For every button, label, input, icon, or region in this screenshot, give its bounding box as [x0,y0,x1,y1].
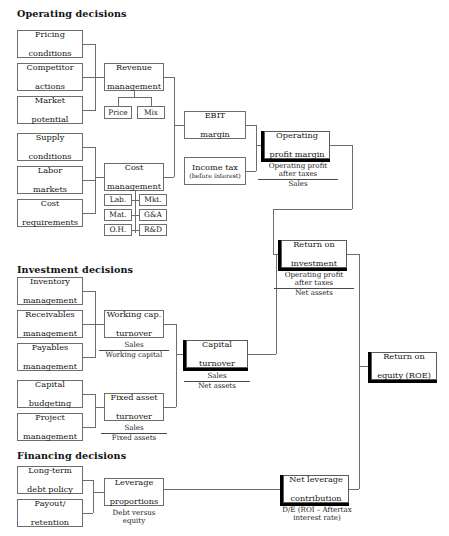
node-net-leverage-contribution[interactable]: Net leverage contribution [283,475,349,503]
node-market-potential[interactable]: Market potential [17,96,83,124]
connector-ebit-out [246,125,256,126]
connector-bus-to-revenue-management [95,77,104,78]
node-pricing-conditions[interactable]: Pricing conditions [17,30,83,58]
node-return-on-investment[interactable]: Return on investment [281,240,347,268]
connector-bus-to-ebit [174,125,184,126]
formula-numerator-line2: after taxes [295,278,333,287]
connector-cost-out [164,177,174,178]
formula-fixed-asset-turnover: Sales Fixed assets [101,424,167,442]
node-mkt[interactable]: Mkt. [139,194,167,206]
node-label-line1: Mkt. [144,196,161,204]
connector-fa-input-bus [95,394,96,428]
node-label-line1: Leverage [110,478,158,488]
node-competitor-actions[interactable]: Competitor actions [17,63,83,91]
node-fixed-asset-turnover[interactable]: Fixed asset turnover [104,393,164,421]
connector-payout-to-bus [83,513,93,514]
node-label-line2: requirements [22,218,78,228]
connector-capital-turnover-up [276,254,277,354]
formula-numerator-line1: Sales [184,372,250,381]
section-heading-financing: Financing decisions [17,450,126,461]
connector-bus-to-opm [256,145,264,146]
node-mix[interactable]: Mix [137,106,165,119]
node-lab[interactable]: Lab. [104,194,132,206]
node-revenue-management[interactable]: Revenue management [104,63,164,91]
node-label-line2: actions [26,82,73,92]
node-label-line1: Project [23,413,77,423]
node-ebit-margin[interactable]: EBIT margin [184,111,246,139]
node-label-line1: Receivables [23,310,77,320]
node-payout-retention[interactable]: Payout/ retention [17,499,83,527]
connector-roe-input-spine [359,254,360,489]
node-label-line2: budgeting [29,399,71,409]
node-label-line1: Labor [33,166,67,176]
connector-labor-to-bus [83,180,95,181]
node-label-line1: Lab. [110,196,126,204]
node-long-term-debt-policy[interactable]: Long-term debt policy [17,466,83,494]
connector-bus-to-leverage [93,492,104,493]
connector-pricing-to-bus [83,44,95,45]
connector-fixed-asset-out [164,407,176,408]
node-label-line1: Payout/ [31,499,69,509]
connector-capital-budgeting-to-bus [83,394,95,395]
node-label-line1: Return on [377,352,431,362]
node-rnd[interactable]: R&D [139,224,167,236]
node-label-line2: conditions [29,152,72,162]
section-heading-operating: Operating decisions [17,8,127,19]
connector-revenue-out [164,77,174,78]
node-cost-requirements[interactable]: Cost requirements [17,199,83,227]
node-capital-budgeting[interactable]: Capital budgeting [17,380,83,408]
node-receivables-management[interactable]: Receivables management [17,310,83,338]
connector-payables-to-bus [83,357,95,358]
node-supply-conditions[interactable]: Supply conditions [17,133,83,161]
node-label-line1: Income tax [189,163,240,173]
node-label-line2: proportions [110,497,158,507]
node-payables-management[interactable]: Payables management [17,343,83,371]
node-label-line2: potential [32,115,69,125]
formula-capital-turnover: Sales Net assets [184,372,250,390]
formula-denominator: Fixed assets [101,433,167,443]
node-label-line2: debt policy [27,485,73,495]
connector-inventory-to-bus [83,291,95,292]
connector-ebit-input-bus [174,77,175,177]
node-operating-profit-margin[interactable]: Operating profit margin [264,131,330,159]
node-labor-markets[interactable]: Labor markets [17,166,83,194]
formula-numerator-line1: Sales [101,424,167,433]
node-inventory-management[interactable]: Inventory management [17,277,83,305]
connector-project-to-bus [83,427,95,428]
node-working-capital-turnover[interactable]: Working cap. turnover [104,310,164,338]
connector-capital-turnover-input-bus [176,324,177,407]
node-label-line1: Cost [22,199,78,209]
node-income-tax[interactable]: Income tax (before interest) [184,157,246,185]
node-label-line1: EBIT [200,111,230,121]
node-label-line1: G&A [144,211,162,219]
section-heading-investment: Investment decisions [17,264,133,275]
node-oh[interactable]: O.H. [104,224,132,236]
connector-capital-turnover-out [248,354,276,355]
caption-line2: interest rate) [293,513,341,522]
connector-bus-to-working-capital [95,324,104,325]
connector-roi-down [273,209,274,254]
caption-leverage-proportions: Debt versus equity [99,509,169,525]
node-label-line1: Fixed asset [110,393,157,403]
node-return-on-equity[interactable]: Return on equity (ROE) [371,352,437,380]
node-project-management[interactable]: Project management [17,413,83,441]
caption-line2: equity [123,516,145,525]
connector-debt-policy-to-bus [83,480,93,481]
node-label-line2: contribution [289,494,343,504]
node-label-line2: management [23,362,77,372]
node-leverage-proportions[interactable]: Leverage proportions [104,478,164,506]
connector-cost-input-bus [95,147,96,214]
node-label-line2: profit margin [269,150,324,160]
node-label-line1: Inventory [23,277,77,287]
node-label-line1: Payables [23,343,77,353]
node-capital-turnover[interactable]: Capital turnover [186,340,248,368]
node-mat[interactable]: Mat. [104,209,132,221]
node-label-line1: Return on [291,240,337,250]
node-gna[interactable]: G&A [139,209,167,221]
node-label-line2: equity (ROE) [377,371,431,381]
connector-net-leverage-out [349,489,359,490]
connector-income-tax-out [246,171,256,172]
node-price[interactable]: Price [104,106,132,119]
node-label-line2: retention [31,518,69,528]
node-cost-management[interactable]: Cost management [104,163,164,191]
